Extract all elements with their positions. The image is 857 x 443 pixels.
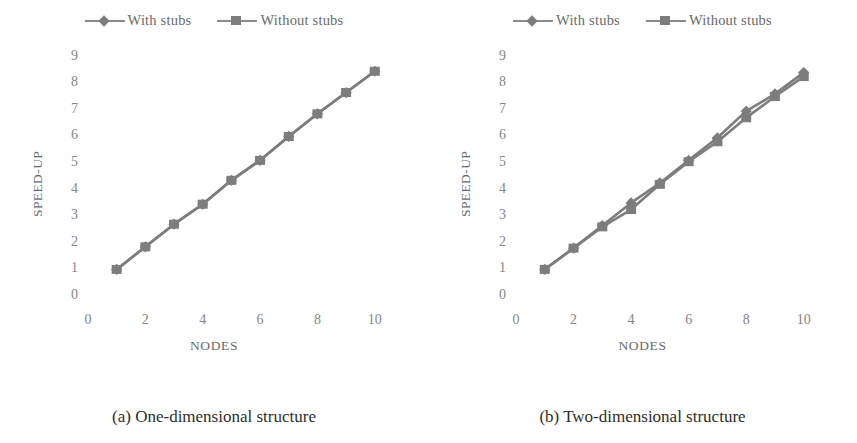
- y-axis-title-a: SPEED-UP: [30, 151, 46, 217]
- chart-panel-b: With stubs Without stubs SPEED-UP NODES …: [428, 0, 857, 443]
- x-tick-label: 10: [360, 312, 390, 328]
- square-marker-icon: [655, 180, 665, 189]
- y-tick-label: 3: [482, 207, 506, 223]
- x-tick-label: 10: [789, 312, 819, 328]
- y-tick-label: 2: [482, 234, 506, 250]
- square-marker-icon: [569, 244, 579, 253]
- y-tick-label: 0: [482, 287, 506, 303]
- y-tick-label: 8: [54, 74, 78, 90]
- square-marker-icon: [140, 242, 150, 251]
- x-tick-label: 4: [616, 312, 646, 328]
- x-tick-label: 0: [73, 312, 103, 328]
- x-tick-label: 8: [731, 312, 761, 328]
- x-tick-label: 6: [674, 312, 704, 328]
- plot-area-b: SPEED-UP NODES 01234567890246810: [428, 0, 857, 390]
- y-axis-title-b: SPEED-UP: [458, 151, 474, 217]
- square-marker-icon: [712, 137, 722, 146]
- x-tick-label: 2: [559, 312, 589, 328]
- square-marker-icon: [626, 205, 636, 214]
- square-marker-icon: [597, 222, 607, 231]
- x-tick-label: 0: [501, 312, 531, 328]
- figure-container: With stubs Without stubs SPEED-UP NODES …: [0, 0, 857, 443]
- y-tick-label: 4: [482, 181, 506, 197]
- square-marker-icon: [312, 109, 322, 118]
- square-marker-icon: [255, 156, 265, 165]
- plot-area-a: SPEED-UP NODES 01234567890246810: [0, 0, 428, 390]
- square-marker-icon: [198, 200, 208, 209]
- square-marker-icon: [799, 72, 809, 81]
- y-tick-label: 9: [482, 48, 506, 64]
- y-tick-label: 0: [54, 287, 78, 303]
- series-line-square: [117, 71, 375, 269]
- x-tick-label: 2: [130, 312, 160, 328]
- y-tick-label: 6: [54, 127, 78, 143]
- y-tick-label: 5: [54, 154, 78, 170]
- square-marker-icon: [370, 67, 380, 76]
- square-marker-icon: [684, 157, 694, 166]
- square-marker-icon: [770, 92, 780, 101]
- series-line-square: [545, 77, 804, 270]
- y-tick-label: 7: [54, 101, 78, 117]
- y-tick-label: 7: [482, 101, 506, 117]
- y-tick-label: 1: [482, 260, 506, 276]
- x-tick-label: 8: [302, 312, 332, 328]
- square-marker-icon: [540, 265, 550, 274]
- y-tick-label: 3: [54, 207, 78, 223]
- panel-caption-b: (b) Two-dimensional structure: [428, 407, 857, 427]
- x-tick-label: 6: [245, 312, 275, 328]
- y-tick-label: 4: [54, 181, 78, 197]
- x-tick-label: 4: [188, 312, 218, 328]
- y-tick-label: 6: [482, 127, 506, 143]
- x-axis-title-b: NODES: [428, 338, 857, 354]
- square-marker-icon: [341, 88, 351, 97]
- y-tick-label: 1: [54, 260, 78, 276]
- y-tick-label: 2: [54, 234, 78, 250]
- y-tick-label: 5: [482, 154, 506, 170]
- square-marker-icon: [226, 176, 236, 185]
- square-marker-icon: [741, 113, 751, 122]
- chart-panel-a: With stubs Without stubs SPEED-UP NODES …: [0, 0, 428, 443]
- square-marker-icon: [112, 265, 122, 274]
- y-tick-label: 9: [54, 48, 78, 64]
- square-marker-icon: [284, 132, 294, 141]
- x-axis-title-a: NODES: [0, 338, 428, 354]
- y-tick-label: 8: [482, 74, 506, 90]
- panel-caption-a: (a) One-dimensional structure: [0, 407, 428, 427]
- square-marker-icon: [169, 220, 179, 229]
